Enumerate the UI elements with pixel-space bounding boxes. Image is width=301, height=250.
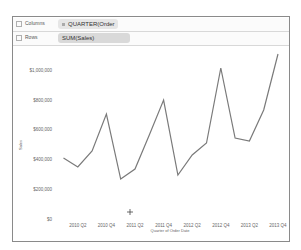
x-tick-label: 2011 Q2 [127, 223, 144, 228]
move-cursor-icon [127, 209, 133, 215]
y-axis: $0$200,000$400,000$600,000$800,000$1,000… [29, 68, 52, 222]
y-tick-label: $600,000 [33, 127, 52, 132]
x-tick-label: 2010 Q4 [98, 223, 116, 228]
x-axis-title: Quarter of Order Date [151, 228, 191, 233]
y-axis-title: Sales [18, 140, 23, 150]
y-tick-label: $800,000 [33, 98, 52, 103]
y-tick-label: $0 [47, 217, 53, 222]
y-tick-label: $400,000 [33, 157, 52, 162]
y-tick-label: $1,000,000 [29, 68, 52, 73]
x-tick-label: 2013 Q2 [241, 223, 259, 228]
line-chart: $0$200,000$400,000$600,000$800,000$1,000… [0, 0, 301, 250]
x-tick-label: 2010 Q2 [69, 223, 87, 228]
y-tick-label: $200,000 [33, 187, 52, 192]
sales-line[interactable] [64, 54, 279, 179]
x-tick-label: 2012 Q4 [212, 223, 230, 228]
x-tick-label: 2013 Q4 [269, 223, 287, 228]
